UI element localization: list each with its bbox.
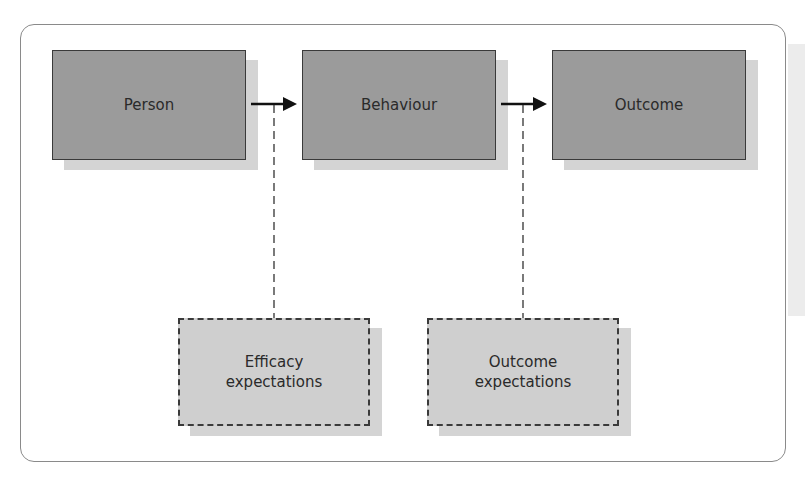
arrow-behaviour-to-outcome <box>501 97 547 111</box>
connectors <box>0 0 805 481</box>
